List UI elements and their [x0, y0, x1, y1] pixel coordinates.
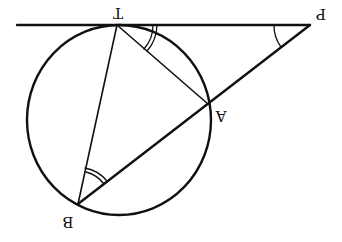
label-p: P	[316, 5, 326, 23]
label-t: T	[113, 4, 123, 22]
secant-pb	[78, 25, 310, 204]
circle	[27, 25, 211, 215]
geometry-diagram: T P A B	[0, 0, 342, 242]
angle-mark-b-inner	[86, 172, 104, 184]
label-a: A	[215, 107, 227, 125]
label-b: B	[62, 213, 73, 231]
angle-mark-p	[274, 25, 281, 47]
angle-mark-b-outer	[85, 168, 107, 181]
